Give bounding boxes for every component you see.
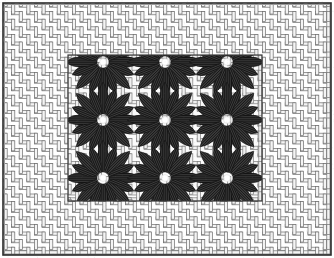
- pattern-canvas: Woven lattice textile with radiating flo…: [0, 0, 334, 258]
- woven-textile-artwork: [0, 0, 334, 258]
